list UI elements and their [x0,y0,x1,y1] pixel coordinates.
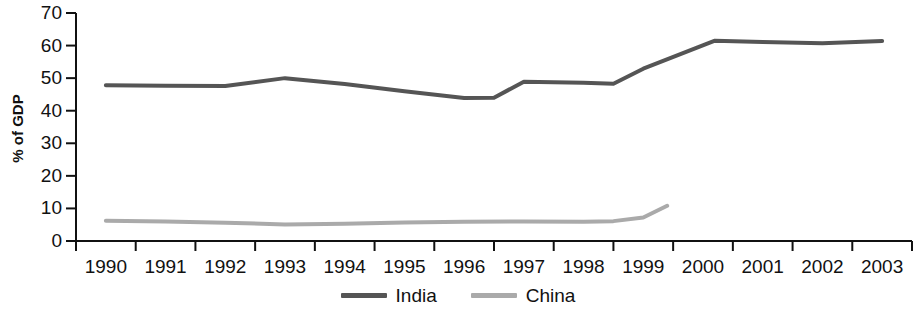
y-axis-tick-label: 20 [28,166,62,185]
x-axis-tick-label: 1996 [434,257,494,276]
series-line-india [106,41,882,98]
legend-label-china: China [526,286,576,305]
x-axis-tick-label: 1993 [255,257,315,276]
y-axis-tick-label: 40 [28,101,62,120]
x-axis-tick-label: 1995 [375,257,435,276]
y-axis-tick-labels: 010203040506070 [22,0,62,250]
data-series-group [106,41,882,225]
axes [66,13,912,251]
x-axis-tick-label: 1992 [195,257,255,276]
y-axis-tick-label: 0 [28,231,62,250]
x-axis-tick-label: 1997 [494,257,554,276]
series-line-china [106,206,667,225]
legend-label-india: India [396,286,437,305]
legend-swatch-india [341,293,387,298]
y-axis-tick-label: 30 [28,133,62,152]
x-axis-ticks [76,241,912,251]
legend-item-india[interactable]: India [341,286,437,305]
legend-swatch-china [471,293,517,298]
x-axis-tick-label: 2002 [793,257,853,276]
y-axis-tick-label: 50 [28,68,62,87]
x-axis-tick-label: 1990 [76,257,136,276]
y-axis-ticks [66,13,76,241]
x-axis-tick-label: 2003 [852,257,912,276]
x-axis-tick-label: 2001 [733,257,793,276]
y-axis-tick-label: 70 [28,3,62,22]
x-axis-tick-label: 1998 [554,257,614,276]
chart-legend: India China [0,286,916,305]
line-chart: % of GDP 010203040506070 199019911992199… [0,0,916,314]
x-axis-tick-label: 1994 [315,257,375,276]
y-axis-tick-label: 60 [28,36,62,55]
legend-item-china[interactable]: China [471,286,576,305]
y-axis-tick-label: 10 [28,198,62,217]
x-axis-tick-label: 2000 [673,257,733,276]
x-axis-tick-label: 1991 [136,257,196,276]
x-axis-tick-label: 1999 [613,257,673,276]
